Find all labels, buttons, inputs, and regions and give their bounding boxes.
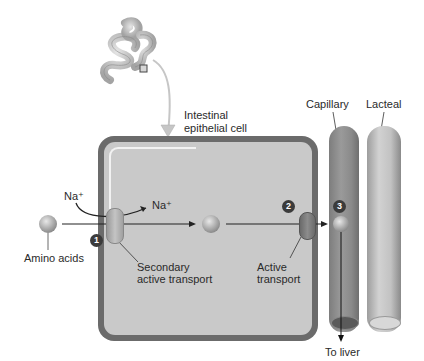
amino-acid-spheres bbox=[0, 0, 424, 361]
active-transport-label-line2: transport bbox=[257, 273, 300, 286]
amino-acid-in-capillary bbox=[333, 216, 349, 232]
amino-acids-label: Amino acids bbox=[24, 252, 84, 265]
step-badge-3: 3 bbox=[333, 200, 346, 213]
step-badge-1: 1 bbox=[90, 234, 103, 247]
step-badge-2: 2 bbox=[282, 200, 295, 213]
amino-acid-in-cell bbox=[202, 215, 220, 233]
secondary-transport-label-line2: active transport bbox=[137, 273, 212, 286]
amino-acid-outside bbox=[39, 215, 57, 233]
to-liver-label: To liver bbox=[325, 346, 360, 359]
